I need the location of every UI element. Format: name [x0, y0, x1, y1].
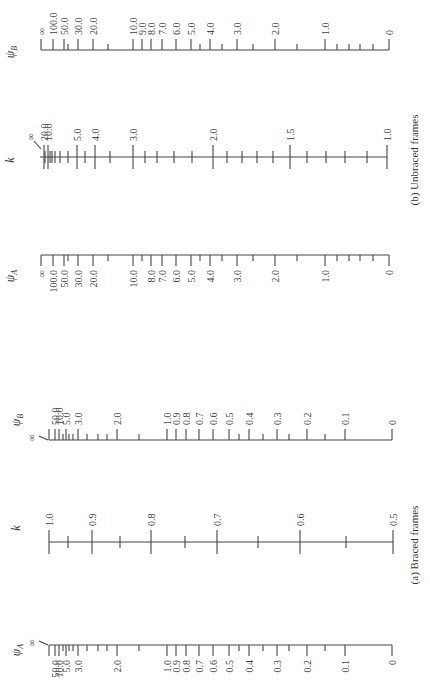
axis-title-k-braced: k [9, 525, 23, 531]
axis-title-psi-b-unbraced: ψB [3, 46, 19, 58]
tick-label: 5.0 [186, 270, 197, 283]
tick-label: 0 [384, 30, 395, 35]
caption-braced: (a) Braced frames [408, 506, 421, 585]
tick-label: 10.0 [43, 124, 54, 142]
tick-label: 4.0 [90, 129, 101, 142]
tick-label: 0.3 [272, 413, 283, 426]
axis-psi-A: ∞100.050.030.020.010.08.07.06.05.04.03.0… [36, 255, 395, 293]
tick-label: 4.0 [205, 270, 216, 283]
tick-label: ∞ [26, 434, 37, 441]
tick-label: 7.0 [157, 270, 168, 283]
tick-label: 2.0 [112, 413, 123, 426]
tick-label: 30.0 [73, 270, 84, 288]
tick-label: 1.0 [382, 129, 393, 142]
infinity-leader [39, 641, 48, 645]
axis-psi-B: ∞100.050.030.020.010.09.08.07.06.05.04.0… [36, 13, 395, 51]
tick-label: 5.0 [186, 23, 197, 36]
tick-label: 0.6 [208, 660, 219, 673]
tick-label: 30.0 [73, 18, 84, 36]
tick-label: 0.1 [340, 413, 351, 426]
tick-label: 6.0 [171, 270, 182, 283]
tick-label: 0 [387, 660, 398, 665]
tick-label: 1.5 [285, 129, 296, 142]
infinity-leader [39, 436, 48, 440]
svg-text:k: k [3, 157, 17, 163]
svg-text:ψB: ψB [9, 414, 25, 426]
tick-label: 0.7 [194, 660, 205, 673]
svg-text:ψB: ψB [3, 46, 19, 58]
tick-label: 10.0 [128, 270, 139, 288]
unbraced-frames-nomograph: ∞100.050.030.020.010.09.08.07.06.05.04.0… [25, 13, 395, 293]
tick-label: 3.0 [232, 270, 243, 283]
tick-label: 100.0 [48, 13, 59, 36]
tick-label: 20.0 [88, 270, 99, 288]
tick-label: 2.0 [208, 129, 219, 142]
tick-label: 4.0 [205, 23, 216, 36]
svg-text:k: k [9, 525, 23, 531]
tick-label: 3.0 [73, 413, 84, 426]
tick-label: 5.0 [72, 129, 83, 142]
axis-psi-A: ∞50.010.05.03.02.01.00.90.80.70.60.50.40… [26, 639, 398, 677]
tick-label: 0 [387, 420, 398, 425]
tick-label: 2.0 [270, 270, 281, 283]
axis-k: ∞20.010.05.04.03.02.01.51.0 [25, 124, 393, 170]
tick-label: 7.0 [157, 23, 168, 36]
tick-label: 1.0 [44, 514, 55, 527]
tick-label: 0.9 [87, 514, 98, 527]
tick-label: 0.2 [302, 413, 313, 426]
tick-label: 2.0 [112, 660, 123, 673]
tick-label: ∞ [26, 639, 37, 646]
axis-title-k-unbraced: k [3, 157, 17, 163]
alignment-chart-diagram: ∞100.050.030.020.010.09.08.07.06.05.04.0… [0, 0, 430, 680]
braced-frames-nomograph: ∞50.010.05.03.02.01.00.90.80.70.60.50.40… [26, 408, 399, 678]
tick-label: 8.0 [146, 23, 157, 36]
tick-label: 0.5 [224, 660, 235, 673]
tick-label: 0.7 [194, 413, 205, 426]
tick-label: 6.0 [171, 23, 182, 36]
svg-text:ψA: ψA [9, 644, 25, 656]
tick-label: 20.0 [88, 18, 99, 36]
axis-title-psi-b-braced: ψB [9, 414, 25, 426]
tick-label: 0.4 [244, 413, 255, 426]
axis-psi-B: ∞50.010.05.03.02.01.00.90.80.70.60.50.40… [26, 408, 398, 442]
tick-label: 5.0 [61, 413, 72, 426]
tick-label: 2.0 [270, 23, 281, 36]
tick-label: 0.3 [272, 660, 283, 673]
tick-label: 0.1 [340, 660, 351, 673]
tick-label: 3.0 [128, 129, 139, 142]
tick-label: 0.6 [208, 413, 219, 426]
tick-label: 50.0 [59, 18, 70, 36]
tick-label: ∞ [36, 28, 47, 35]
tick-label: 0.6 [295, 514, 306, 527]
tick-label: 0 [384, 270, 395, 275]
axis-k: 1.00.90.80.70.60.5 [44, 514, 399, 555]
svg-text:ψA: ψA [3, 270, 19, 282]
tick-label: 0.7 [212, 514, 223, 527]
axis-title-psi-a-unbraced: ψA [3, 270, 19, 282]
tick-label: 0.5 [388, 514, 399, 527]
axis-title-psi-a-braced: ψA [9, 644, 25, 656]
tick-label: 0.8 [146, 514, 157, 527]
svg-text:(a) Braced frames: (a) Braced frames [408, 506, 421, 585]
tick-label: 100.0 [48, 270, 59, 293]
tick-label: 8.0 [146, 270, 157, 283]
caption-unbraced: (b) Unbraced frames [408, 114, 421, 205]
tick-label: 0.8 [181, 660, 192, 673]
tick-label: 1.0 [320, 270, 331, 283]
tick-label: ∞ [25, 133, 36, 140]
tick-label: 50.0 [59, 270, 70, 288]
infinity-leader [34, 141, 41, 149]
tick-label: ∞ [36, 270, 47, 277]
tick-label: 5.0 [61, 660, 72, 673]
tick-label: 3.0 [73, 660, 84, 673]
svg-text:(b) Unbraced frames: (b) Unbraced frames [408, 114, 421, 205]
tick-label: 0.4 [244, 660, 255, 673]
tick-label: 1.0 [320, 23, 331, 36]
tick-label: 0.8 [181, 413, 192, 426]
tick-label: 0.2 [302, 660, 313, 673]
tick-label: 0.5 [224, 413, 235, 426]
tick-label: 3.0 [232, 23, 243, 36]
